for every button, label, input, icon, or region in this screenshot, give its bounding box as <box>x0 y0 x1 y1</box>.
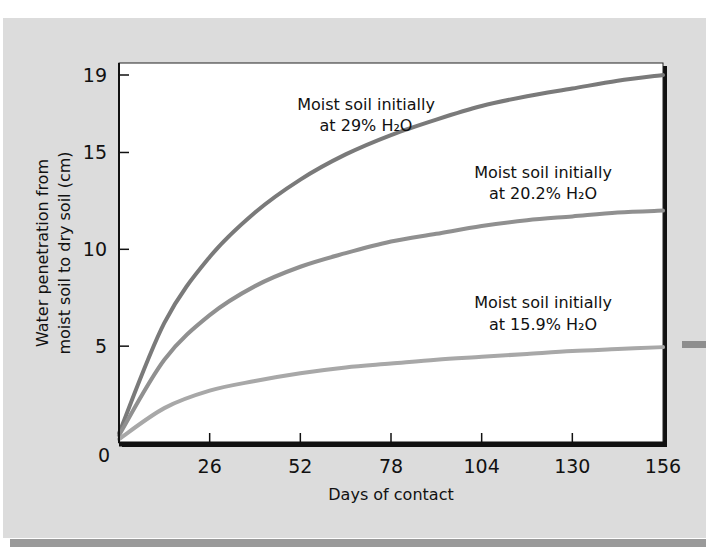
x-tick-label: 78 <box>379 455 403 477</box>
annotation-20-line-2: at 20.2% H₂O <box>489 184 597 203</box>
y-axis-label-line-2: moist soil to dry soil (cm) <box>55 151 74 354</box>
origin-label: 0 <box>98 444 110 466</box>
annotation-20-line-1: Moist soil initially <box>474 163 612 182</box>
y-axis-label: Water penetration from moist soil to dry… <box>33 151 74 354</box>
y-tick-label: 19 <box>83 64 107 86</box>
annotation-29-line-2: at 29% H₂O <box>320 116 413 135</box>
x-tick-label: 52 <box>288 455 312 477</box>
annotation-15-line-2: at 15.9% H₂O <box>489 315 597 334</box>
x-axis-label: Days of contact <box>328 485 453 504</box>
y-tick-label: 5 <box>95 335 107 357</box>
x-tick-label: 26 <box>198 455 222 477</box>
y-tick-label: 15 <box>83 141 107 163</box>
x-tick-label: 156 <box>645 455 681 477</box>
line-chart: 5101519265278104130156 0 Days of contact… <box>0 0 706 555</box>
annotation-15-line-1: Moist soil initially <box>474 293 612 312</box>
annotation-29-line-1: Moist soil initially <box>297 95 435 114</box>
y-axis-label-line-1: Water penetration from <box>33 159 52 347</box>
x-tick-label: 104 <box>464 455 500 477</box>
y-tick-label: 10 <box>83 238 107 260</box>
x-tick-label: 130 <box>554 455 590 477</box>
